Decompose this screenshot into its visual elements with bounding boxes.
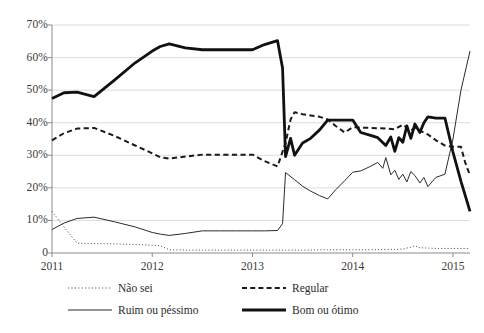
legend-swatch-solid-thin-icon <box>68 304 112 316</box>
chart-container: 70%60%50%40%30%20%10%0 20112012201320142… <box>0 0 484 333</box>
legend-item-nao-sei[interactable]: Não sei <box>68 280 153 296</box>
legend-item-regular[interactable]: Regular <box>242 280 328 296</box>
legend-swatch-dotted-icon <box>68 282 112 294</box>
legend-label-nao-sei: Não sei <box>118 282 153 294</box>
legend-swatch-solid-thick-icon <box>242 304 286 316</box>
legend-label-ruim-ou-pessimo: Ruim ou péssimo <box>118 304 199 316</box>
x-tick-label: 2013 <box>222 261 282 273</box>
x-tick-label: 2011 <box>22 261 82 273</box>
legend-label-regular: Regular <box>292 282 328 294</box>
chart-legend: Não sei Regular Ruim ou péssimo <box>0 276 484 333</box>
x-tick-label: 2014 <box>323 261 383 273</box>
x-tick-label: 2012 <box>122 261 182 273</box>
legend-item-bom-ou-otimo[interactable]: Bom ou ótimo <box>242 302 358 318</box>
legend-item-ruim-ou-pessimo[interactable]: Ruim ou péssimo <box>68 302 199 318</box>
legend-swatch-dashed-icon <box>242 282 286 294</box>
legend-label-bom-ou-otimo: Bom ou ótimo <box>292 304 358 316</box>
x-tick-label: 2015 <box>423 261 483 273</box>
x-axis-tick-labels: 20112012201320142015 <box>0 0 484 272</box>
plot-area: 70%60%50%40%30%20%10%0 20112012201320142… <box>0 0 484 272</box>
